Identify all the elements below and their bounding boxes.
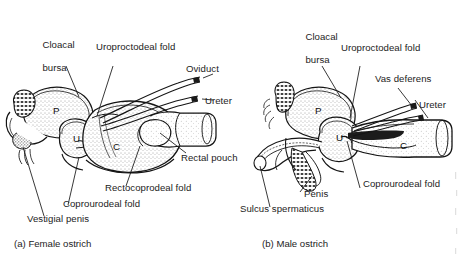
- caption-panel-b: (b) Male ostrich: [262, 238, 328, 249]
- label-cloacal-bursa-a: Cloacal bursa: [37, 28, 75, 73]
- label-penis-b: Penis: [304, 188, 328, 199]
- label-sulcus-spermaticus-b: Sulcus spermaticus: [240, 203, 324, 214]
- label-uroproctodeal-fold-a: Uroproctodeal fold: [96, 41, 175, 52]
- chamber-label-p-a: P: [53, 105, 60, 116]
- chamber-label-u-a: U: [73, 133, 80, 144]
- chamber-label-p-b: P: [315, 105, 322, 116]
- label-cloacal-bursa-b-line2: bursa: [305, 54, 329, 65]
- label-vestigial-penis-a: Vestigial penis: [27, 213, 89, 224]
- label-rectocoprodeal-fold-a: Rectocoprodeal fold: [105, 182, 191, 193]
- scan-edge-artifacts: [455, 172, 457, 254]
- caption-panel-a: (a) Female ostrich: [14, 238, 91, 249]
- label-oviduct-a: Oviduct: [186, 63, 219, 74]
- label-rectal-pouch-a: Rectal pouch: [181, 152, 238, 163]
- chamber-label-c-a: C: [113, 141, 120, 152]
- label-ureter-b: Ureter: [419, 99, 446, 110]
- label-cloacal-bursa-a-line2: bursa: [42, 62, 66, 73]
- label-coprourodeal-fold-b: Coprourodeal fold: [363, 178, 440, 189]
- panel-a-artwork: [6, 66, 216, 216]
- label-cloacal-bursa-b: Cloacal bursa: [300, 20, 338, 65]
- label-ureter-a: Ureter: [205, 95, 232, 106]
- chamber-label-c-b: C: [400, 140, 407, 151]
- label-cloacal-bursa-a-line1: Cloacal: [42, 39, 74, 50]
- chamber-label-u-b: U: [336, 132, 343, 143]
- ostrich-cloaca-figure: Cloacal bursa Uroproctodeal fold Oviduct…: [0, 0, 463, 277]
- label-cloacal-bursa-b-line1: Cloacal: [305, 31, 337, 42]
- label-uroproctodeal-fold-b: Uroproctodeal fold: [341, 42, 420, 53]
- label-coprourodeal-fold-a: Coprourodeal fold: [63, 198, 140, 209]
- label-vas-deferens-b: Vas deferens: [375, 73, 431, 84]
